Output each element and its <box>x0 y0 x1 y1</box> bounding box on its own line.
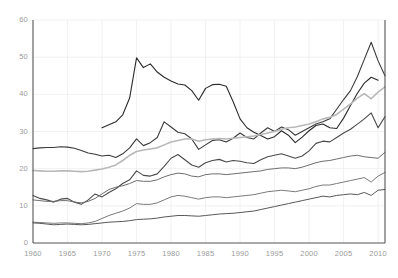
plot-area <box>0 0 398 278</box>
y-axis-tick-label: 50 <box>6 52 28 61</box>
x-axis-tick-label: 1975 <box>120 249 154 258</box>
x-axis-tick-label: 1970 <box>85 249 119 258</box>
x-axis-tick-label: 2010 <box>361 249 395 258</box>
y-axis-tick-label: 10 <box>6 201 28 210</box>
x-axis-tick-label: 1985 <box>189 249 223 258</box>
x-axis-tick-label: 2000 <box>292 249 326 258</box>
series-line <box>33 189 385 224</box>
x-axis-tick-label: 1980 <box>154 249 188 258</box>
series-line <box>33 152 385 203</box>
y-axis-tick-label: 20 <box>6 164 28 173</box>
x-axis-tick-label: 2005 <box>327 249 361 258</box>
x-axis-tick-label: 1960 <box>16 249 50 258</box>
x-axis-tick-label: 1965 <box>51 249 85 258</box>
x-axis-tick-label: 1995 <box>258 249 292 258</box>
y-axis-tick-label: 60 <box>6 15 28 24</box>
x-axis-tick-label: 1990 <box>223 249 257 258</box>
y-axis-tick-label: 0 <box>6 238 28 247</box>
series-line <box>33 113 385 204</box>
y-axis-tick-label: 40 <box>6 89 28 98</box>
series-line <box>33 172 385 223</box>
y-axis-tick-label: 30 <box>6 127 28 136</box>
line-chart: 0102030405060196019651970197519801985199… <box>0 0 398 278</box>
series-line <box>33 87 385 172</box>
